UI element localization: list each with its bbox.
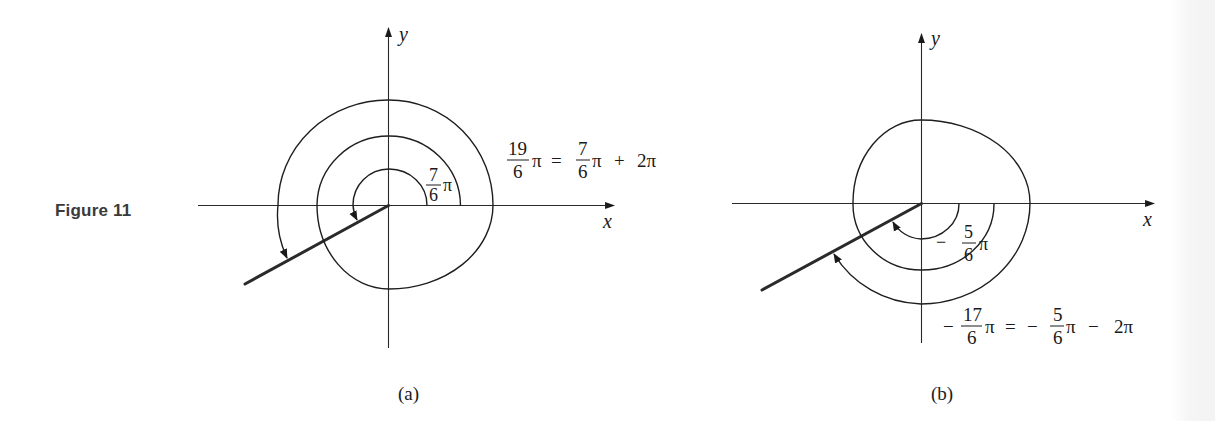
x-axis-label: x xyxy=(602,210,612,232)
lhs-numerator: 17 xyxy=(963,304,982,325)
inner-angle-numerator: 5 xyxy=(964,222,973,242)
rhs-denominator: 6 xyxy=(578,161,588,182)
rhs-term: 2π xyxy=(637,150,657,171)
x-axis-label: x xyxy=(1142,208,1152,230)
inner-angle-numerator: 7 xyxy=(429,165,438,185)
rhs-denominator: 6 xyxy=(1053,327,1063,348)
inner-angle-denominator: 6 xyxy=(964,245,973,265)
minus-sign: − xyxy=(1088,316,1099,337)
panel-b: y x − 5 6 π − 17 6 π = − 5 6 π − 2π (b) xyxy=(732,27,1154,405)
pi-symbol: π xyxy=(443,175,452,195)
rhs-pi: π xyxy=(1066,316,1076,337)
caption-a: (a) xyxy=(398,383,419,405)
equals-sign: = xyxy=(1005,316,1016,337)
lhs-denominator: 6 xyxy=(967,327,977,348)
inner-angle-label: 7 6 π xyxy=(426,165,452,205)
lhs-pi: π xyxy=(532,150,542,171)
angle-spiral-neg-17-6-pi xyxy=(834,120,1030,304)
rhs-numerator: 5 xyxy=(1053,304,1063,325)
caption-b: (b) xyxy=(931,383,953,405)
panel-a: y x 7 6 π 19 6 π = 7 6 π + 2π (a) xyxy=(198,23,657,405)
rhs-numerator: 7 xyxy=(578,138,588,159)
y-axis-label: y xyxy=(929,27,940,50)
inner-angle-denominator: 6 xyxy=(429,185,438,205)
equation-a: 19 6 π = 7 6 π + 2π xyxy=(507,138,657,182)
angle-arc-7-6-pi xyxy=(353,169,427,220)
figure-canvas: y x 7 6 π 19 6 π = 7 6 π + 2π (a) xyxy=(0,0,1215,421)
lhs-denominator: 6 xyxy=(513,161,523,182)
rhs-term: 2π xyxy=(1114,316,1134,337)
angle-arc-neg-5-6-pi xyxy=(893,204,959,240)
pi-symbol: π xyxy=(979,234,988,254)
rhs-sign: − xyxy=(1027,316,1038,337)
y-axis-label: y xyxy=(397,23,408,46)
lhs-sign: − xyxy=(943,316,954,337)
inner-angle-sign: − xyxy=(936,232,946,252)
angle-spiral-19-6-pi xyxy=(277,100,493,289)
lhs-pi: π xyxy=(985,316,995,337)
equation-b: − 17 6 π = − 5 6 π − 2π xyxy=(943,304,1134,348)
terminal-side-ray xyxy=(762,204,922,291)
lhs-numerator: 19 xyxy=(508,138,527,159)
rhs-pi: π xyxy=(592,150,602,171)
terminal-side-ray xyxy=(245,206,389,285)
plus-sign: + xyxy=(614,150,625,171)
equals-sign: = xyxy=(551,150,562,171)
